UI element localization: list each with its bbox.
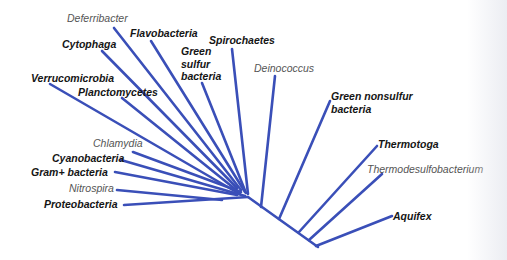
taxon-label-cyanobacteria: Cyanobacteria bbox=[52, 152, 124, 164]
phylogenetic-tree: DeferribacterFlavobacteriaCytophagaSpiro… bbox=[0, 0, 507, 260]
taxon-label-chlamydia: Chlamydia bbox=[93, 137, 143, 149]
branch-deinococcus bbox=[261, 76, 275, 207]
taxon-label-deferribacter: Deferribacter bbox=[67, 12, 128, 24]
taxon-label-proteobacteria: Proteobacteria bbox=[44, 198, 118, 210]
taxon-label-planctomycetes: Planctomycetes bbox=[78, 86, 158, 98]
branch-spirochaetes bbox=[232, 49, 248, 194]
taxon-label-cytophaga: Cytophaga bbox=[62, 38, 116, 50]
taxon-label-verrucomicrobia: Verrucomicrobia bbox=[31, 72, 114, 84]
taxon-label-deinococcus: Deinococcus bbox=[254, 62, 314, 74]
taxon-label-gram-positive-bacteria: Gram+ bacteria bbox=[31, 166, 108, 178]
branch-deferribacter bbox=[114, 28, 241, 190]
taxon-label-thermodesulfobacterium: Thermodesulfobacterium bbox=[367, 163, 483, 175]
page-edge-shadow bbox=[467, 0, 507, 260]
branch-proteobacteria bbox=[124, 197, 248, 205]
taxon-label-flavobacteria: Flavobacteria bbox=[130, 27, 198, 39]
taxon-label-nitrospira: Nitrospira bbox=[69, 182, 114, 194]
taxon-label-green-nonsulfur-bacteria: Green nonsulfur bacteria bbox=[331, 90, 413, 115]
taxon-label-aquifex: Aquifex bbox=[393, 210, 432, 222]
taxon-label-green-sulfur-bacteria: Green sulfur bacteria bbox=[181, 45, 221, 83]
branch-aquifex bbox=[316, 216, 392, 246]
taxon-label-thermotoga: Thermotoga bbox=[378, 138, 439, 150]
branch-green-nonsulfur-bacteria bbox=[279, 101, 330, 219]
